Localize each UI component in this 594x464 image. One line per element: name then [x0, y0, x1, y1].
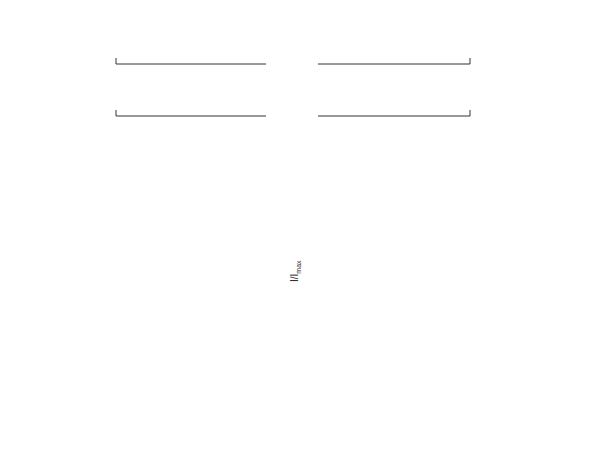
iv-scatter-chart [290, 220, 594, 390]
wild-type-traces [0, 160, 290, 300]
k226q-traces [0, 310, 290, 460]
y-axis-label: I/Imax [289, 260, 302, 282]
s4-brackets [0, 0, 594, 130]
